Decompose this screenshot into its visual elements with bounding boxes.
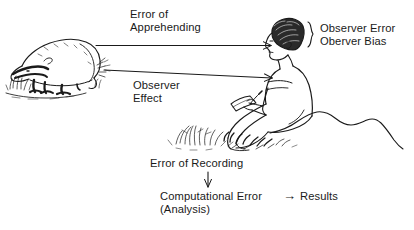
label-error-of-apprehending: Error ofApprehending bbox=[130, 8, 201, 34]
label-results: Results bbox=[300, 190, 338, 203]
label-error-of-recording: Error of Recording bbox=[150, 157, 243, 170]
badger-animal-illustration bbox=[6, 39, 110, 99]
label-error-of-apprehending-line1: Error of bbox=[130, 8, 168, 20]
label-observer-error: Observer Error bbox=[320, 22, 395, 34]
label-observer-effect-line2: Effect bbox=[133, 92, 162, 104]
diagram-canvas: Error ofApprehending Observer ErrorOberv… bbox=[0, 0, 414, 230]
label-analysis: (Analysis) bbox=[160, 203, 210, 215]
curly-brace-observer-labels bbox=[308, 22, 313, 47]
label-computational-error-line1: Computational Error bbox=[160, 190, 262, 202]
arrow-observer-effect bbox=[104, 70, 272, 78]
label-oberver-bias: Oberver Bias bbox=[320, 35, 386, 47]
label-error-of-apprehending-line2: Apprehending bbox=[130, 21, 201, 33]
arrow-to-results-glyph: → bbox=[283, 189, 296, 202]
label-observer-error-bias: Observer ErrorOberver Bias bbox=[320, 22, 395, 48]
label-observer-effect-line1: Observer bbox=[133, 79, 180, 91]
label-computational-error: Computational Error(Analysis) bbox=[160, 190, 262, 216]
label-observer-effect: ObserverEffect bbox=[133, 79, 180, 105]
